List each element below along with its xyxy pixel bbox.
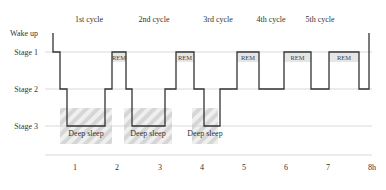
cycle-label: 2nd cycle <box>139 15 170 24</box>
stage-label: Stage 2 <box>14 85 38 94</box>
cycle-label: 1st cycle <box>75 15 104 24</box>
stage-label: Stage 1 <box>14 48 38 57</box>
hour-tick-label: 8h <box>368 163 376 172</box>
deep-sleep-label: Deep sleep <box>187 129 222 138</box>
stage-label: Stage 3 <box>14 122 38 131</box>
stage-label: Wake up <box>10 29 38 38</box>
rem-label: REM <box>178 54 192 61</box>
hour-tick-label: 4 <box>200 163 204 172</box>
rem-label: REM <box>290 54 304 61</box>
rem-label: REM <box>112 54 126 61</box>
cycle-labels: 1st cycle2nd cycle3rd cycle4th cycle5th … <box>75 15 335 24</box>
rem-label: REM <box>337 54 351 61</box>
rem-label: REM <box>241 54 255 61</box>
hour-tick-label: 7 <box>326 163 330 172</box>
cycle-label: 4th cycle <box>256 15 286 24</box>
deep-sleep-label: Deep sleep <box>130 129 165 138</box>
cycle-label: 5th cycle <box>305 15 335 24</box>
hour-tick-label: 6 <box>284 163 288 172</box>
hour-tick-labels: 12345678h <box>73 163 376 172</box>
hour-tick-label: 3 <box>158 163 162 172</box>
deep-sleep-label: Deep sleep <box>68 129 103 138</box>
hour-tick-label: 5 <box>242 163 246 172</box>
hour-tick-label: 1 <box>73 163 77 172</box>
hour-tick-label: 2 <box>115 163 119 172</box>
cycle-label: 3rd cycle <box>203 15 233 24</box>
rem-blocks: REMREMREMREMREM <box>112 53 359 62</box>
sleep-cycle-diagram: Deep sleepDeep sleepDeep sleep REMREMREM… <box>0 0 386 190</box>
stage-labels: Wake upStage 1Stage 2Stage 3 <box>10 29 38 131</box>
